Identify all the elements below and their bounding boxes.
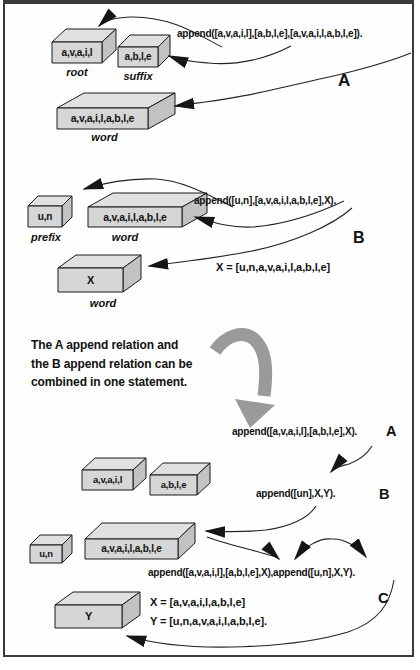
box-prefix-content: u,n	[28, 206, 62, 227]
combine-swoosh-head	[235, 399, 275, 428]
append-statement-a: append([a,v,a,i,l],[a,b,l,e],[a,v,a,i,l,…	[177, 28, 362, 39]
relation-label-a: A	[338, 71, 350, 91]
result-statement-x: X = [a,v,a,i,l,a,b,l,e]	[150, 596, 245, 608]
arrow-c-combined-to-y-box	[127, 580, 394, 647]
relation-label-c-a: A	[386, 423, 396, 439]
figure-append-relations: append([a,v,a,i,l],[a,b,l,e],[a,v,a,i,l,…	[0, 0, 420, 670]
box-word-b-caption: word	[97, 231, 153, 243]
box-prefix-caption: prefix	[20, 231, 72, 243]
relation-label-c-b: B	[379, 486, 389, 502]
box-suffix-content: a,b,l,e	[118, 47, 158, 67]
arrow-statement-a-to-word	[175, 53, 411, 106]
combine-swoosh-body	[215, 335, 266, 396]
box-suffix-caption: suffix	[112, 70, 164, 82]
box-x-content: X	[58, 268, 123, 292]
relation-label-b: B	[353, 229, 365, 247]
box-avail-c-content: a,v,a,i,l	[82, 470, 133, 490]
arrow-c-word-box-to-combined-x	[207, 537, 279, 559]
relation-label-c-c: C	[378, 589, 389, 606]
append-statement-b: append([u,n],[a,v,a,i,l,a,b,l,e],X).	[194, 195, 336, 206]
box-face-top	[85, 523, 195, 539]
result-statement-b: X = [u,n,a,v,a,i,l,a,b,l,e]	[216, 261, 330, 273]
arrow-c-statement-a-to-statement-b	[331, 446, 372, 472]
box-root-caption: root	[52, 66, 102, 78]
box-word-c-content: a,v,a,i,l,a,b,l,e	[85, 539, 178, 559]
arrow-c-statement-b-to-word-box	[206, 506, 316, 532]
box-word-b-content: a,v,a,i,l,a,b,l,e	[88, 207, 182, 227]
box-word-a-caption: word	[59, 131, 150, 143]
arrow-statement-a-to-suffix	[169, 46, 291, 64]
result-statement-y: Y = [u,n,a,v,a,i,l,a,b,l,e].	[150, 615, 267, 627]
arrow-c-x-link-right	[331, 539, 366, 557]
combine-swoosh-arrow	[215, 335, 275, 428]
append-statement-c-a: append([a,v,a,i,l],[a,b,l,e],X).	[232, 426, 357, 437]
box-y-content: Y	[55, 605, 122, 628]
append-statement-c-b: append([un],X,Y).	[256, 488, 335, 499]
combine-note-line3: combined in one statement.	[31, 373, 192, 392]
box-able-c-content: a,b,l,e	[150, 475, 197, 495]
arrow-c-x-link-left	[295, 539, 331, 559]
box-root-content: a,v,a,i,l	[52, 42, 102, 63]
append-statement-combined: append([a,v,a,i,l],[a,b,l,e],X),append([…	[148, 567, 355, 578]
box-un-c-content: u,n	[30, 545, 62, 563]
box-x-caption: word	[75, 297, 131, 309]
combine-note-line1: The A append relation and	[31, 336, 192, 355]
box-word-a-content: a,v,a,i,l,a,b,l,e	[57, 108, 148, 129]
combine-note-line2: the B append relation can be	[31, 355, 192, 374]
combine-note: The A append relation and the B append r…	[31, 336, 192, 392]
